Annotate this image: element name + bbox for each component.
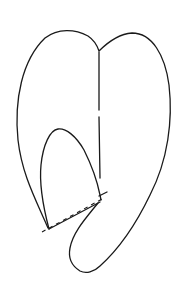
midline: [99, 52, 100, 178]
inner-arch-flap: [41, 129, 101, 229]
fold-line: [42, 199, 102, 232]
flap-bottom-edge: [49, 202, 100, 229]
line-drawing: [0, 0, 183, 291]
outer-outline: [17, 31, 170, 273]
